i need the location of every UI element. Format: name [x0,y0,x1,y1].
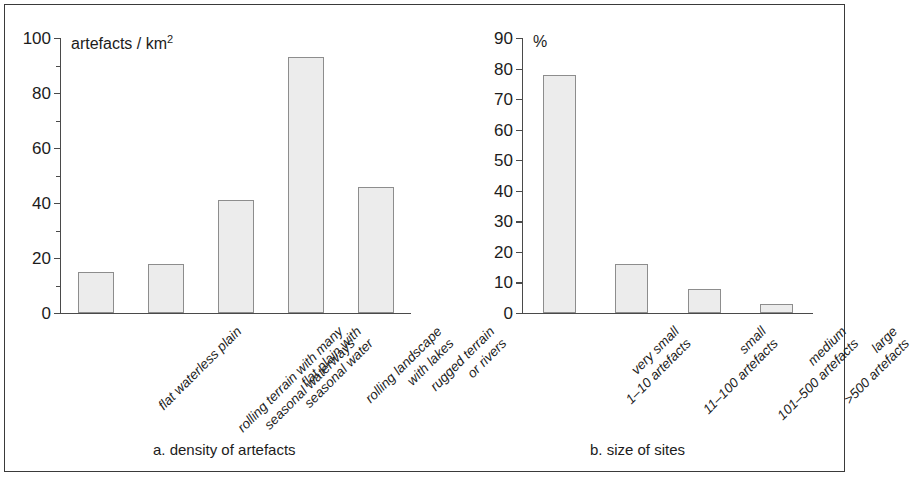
figure-frame: artefacts / km2 020406080100 flat waterl… [4,4,845,472]
panel-caption-b: b. size of sites [590,442,685,457]
category-label-line: flat waterless plain [155,323,246,414]
chart-panel-a: artefacts / km2 020406080100 flat waterl… [5,5,440,471]
category-label-a-0: flat waterless plain [155,323,246,414]
x-axis-category-labels-a: flat waterless plainrolling terrain with… [5,5,440,471]
chart-panel-b: % 0102030405060708090 very small1–10 art… [440,5,846,471]
category-label-b-0: very small1–10 artefacts [610,323,695,408]
panel-caption-a: a. density of artefacts [153,442,296,457]
x-axis-category-labels-b: very small1–10 artefactssmall11–100 arte… [440,5,846,471]
